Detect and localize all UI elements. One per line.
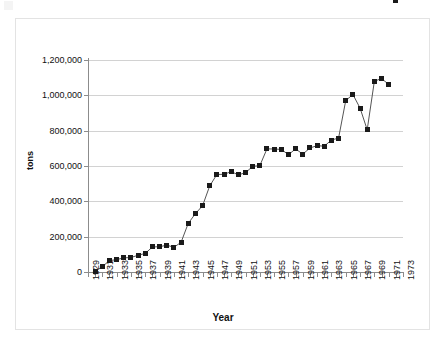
data-point-marker — [100, 264, 105, 269]
data-point-marker — [300, 152, 305, 157]
data-point-marker — [329, 138, 334, 143]
data-point-marker — [365, 127, 370, 132]
data-point-marker — [107, 258, 112, 263]
data-point-marker — [336, 136, 341, 141]
data-point-marker — [322, 144, 327, 149]
data-point-marker — [179, 240, 184, 245]
data-point-marker — [307, 145, 312, 150]
x-axis-title: Year — [0, 312, 446, 323]
data-point-marker — [379, 76, 384, 81]
data-point-marker — [257, 163, 262, 168]
data-point-marker — [386, 82, 391, 87]
data-point-marker — [93, 269, 98, 274]
data-point-marker — [315, 143, 320, 148]
data-point-marker — [214, 172, 219, 177]
data-point-marker — [150, 244, 155, 249]
data-point-marker — [358, 106, 363, 111]
data-point-marker — [343, 98, 348, 103]
data-point-marker — [186, 221, 191, 226]
data-point-marker — [157, 244, 162, 249]
data-point-marker — [164, 243, 169, 248]
data-point-marker — [350, 92, 355, 97]
data-point-marker — [114, 257, 119, 262]
data-point-marker — [207, 183, 212, 188]
data-point-marker — [393, 0, 398, 3]
data-point-marker — [243, 170, 248, 175]
data-point-marker — [222, 172, 227, 177]
data-point-marker — [128, 255, 133, 260]
data-point-marker — [264, 146, 269, 151]
y-axis-title: tons — [25, 151, 35, 170]
data-point-marker — [136, 253, 141, 258]
data-point-marker — [293, 146, 298, 151]
data-point-marker — [279, 147, 284, 152]
data-point-marker — [171, 245, 176, 250]
data-point-marker — [272, 147, 277, 152]
data-point-marker — [121, 255, 126, 260]
data-point-marker — [229, 169, 234, 174]
data-point-marker — [200, 203, 205, 208]
data-point-marker — [286, 152, 291, 157]
chart-figure: 0200,000400,000600,000800,0001,000,0001,… — [0, 0, 446, 349]
data-point-marker — [372, 79, 377, 84]
data-point-marker — [143, 251, 148, 256]
data-point-marker — [236, 172, 241, 177]
data-point-marker — [250, 164, 255, 169]
data-point-marker — [193, 211, 198, 216]
